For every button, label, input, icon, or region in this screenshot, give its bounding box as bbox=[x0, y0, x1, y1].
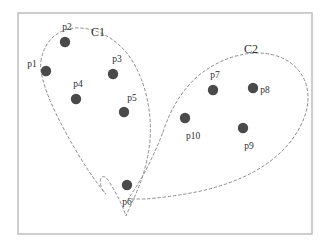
data-point-p2[interactable] bbox=[60, 37, 70, 47]
data-point-p6[interactable] bbox=[122, 180, 132, 190]
point-label-p6: p6 bbox=[122, 197, 132, 207]
point-label-p8: p8 bbox=[260, 85, 270, 95]
data-point-p3[interactable] bbox=[108, 69, 118, 79]
data-point-p5[interactable] bbox=[119, 107, 129, 117]
cluster-label-c1: C1 bbox=[91, 25, 105, 39]
point-label-p5: p5 bbox=[127, 93, 137, 103]
data-point-p7[interactable] bbox=[208, 85, 218, 95]
point-label-p3: p3 bbox=[112, 54, 122, 64]
point-label-p7: p7 bbox=[210, 70, 220, 80]
cluster-diagram-figure: C1 C2 p1 p2 p3 p4 p5 p6 p7 p8 p9 p10 bbox=[0, 0, 329, 246]
point-label-p1: p1 bbox=[27, 59, 37, 69]
point-label-p10: p10 bbox=[186, 131, 201, 141]
data-point-p1[interactable] bbox=[41, 66, 51, 76]
data-point-p9[interactable] bbox=[238, 123, 248, 133]
data-point-p10[interactable] bbox=[180, 113, 190, 123]
data-point-p8[interactable] bbox=[248, 83, 258, 93]
cluster-label-c2: C2 bbox=[244, 42, 258, 56]
point-label-p9: p9 bbox=[244, 141, 254, 151]
data-point-p4[interactable] bbox=[71, 94, 81, 104]
point-label-p2: p2 bbox=[62, 22, 72, 32]
point-label-p4: p4 bbox=[73, 79, 83, 89]
diagram-canvas: C1 C2 p1 p2 p3 p4 p5 p6 p7 p8 p9 p10 bbox=[0, 0, 329, 246]
